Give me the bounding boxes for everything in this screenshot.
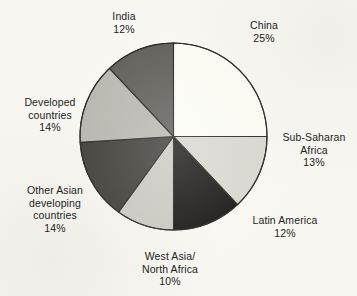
pie-label-line: countries [7,209,103,222]
pie-slice-group [80,43,267,230]
pie-label-line: developing [7,197,103,210]
pie-label-line: India [88,10,160,23]
pie-label-other-asian-developing-countries: Other Asiandevelopingcountries14% [7,184,103,234]
pie-label-china: China25% [228,19,300,44]
pie-label-line: 10% [122,275,218,288]
pie-label-line: 12% [236,227,334,240]
pie-label-line: Latin America [236,214,334,227]
pie-label-line: Africa [272,144,356,157]
pie-label-line: 14% [7,222,103,235]
pie-label-west-asia-north-africa: West Asia/North Africa10% [122,250,218,288]
pie-label-latin-america: Latin America12% [236,214,334,239]
pie-label-line: 14% [5,121,95,134]
pie-label-developed-countries: Developedcountries14% [5,96,95,134]
pie-label-line: 12% [88,23,160,36]
pie-label-line: Developed [5,96,95,109]
pie-label-line: 25% [228,32,300,45]
pie-slice-china [174,43,268,137]
pie-chart-figure: India12% China25% Sub-SaharanAfrica13% L… [0,0,357,296]
pie-label-line: North Africa [122,263,218,276]
pie-label-india: India12% [88,10,160,35]
pie-label-line: China [228,19,300,32]
pie-label-line: West Asia/ [122,250,218,263]
pie-label-sub-saharan-africa: Sub-SaharanAfrica13% [272,131,356,169]
pie-label-line: Sub-Saharan [272,131,356,144]
pie-label-line: Other Asian [7,184,103,197]
pie-label-line: 13% [272,156,356,169]
pie-label-line: countries [5,109,95,122]
